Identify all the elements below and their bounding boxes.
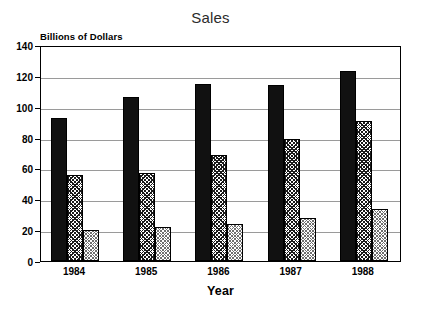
bar-1987-series-2-cross-hatch bbox=[284, 139, 300, 261]
y-tick-mark bbox=[35, 108, 40, 109]
bar-1987-series-3-light-stipple bbox=[300, 218, 316, 261]
bar-group bbox=[185, 47, 257, 261]
x-axis-label: Year bbox=[40, 284, 401, 298]
y-tick-label: 140 bbox=[16, 41, 33, 52]
sales-bar-chart: Sales Billions of Dollars 02040608010012… bbox=[0, 0, 421, 313]
y-tick-mark bbox=[35, 169, 40, 170]
y-tick-label: 0 bbox=[27, 257, 33, 268]
bar-group bbox=[258, 47, 330, 261]
bar-1984-series-1-solid-black bbox=[51, 118, 67, 261]
y-tick-label: 40 bbox=[22, 195, 33, 206]
bar-group bbox=[330, 47, 402, 261]
bar-1988-series-3-light-stipple bbox=[372, 209, 388, 261]
y-tick-label: 100 bbox=[16, 102, 33, 113]
y-tick-label: 60 bbox=[22, 164, 33, 175]
bar-1988-series-1-solid-black bbox=[340, 71, 356, 261]
y-tick-label: 20 bbox=[22, 226, 33, 237]
y-tick-mark bbox=[35, 77, 40, 78]
bar-1988-series-2-cross-hatch bbox=[356, 121, 372, 261]
y-tick-mark bbox=[35, 200, 40, 201]
chart-title: Sales bbox=[0, 9, 421, 26]
y-tick-label: 120 bbox=[16, 71, 33, 82]
y-tick-mark bbox=[35, 231, 40, 232]
bar-1984-series-2-cross-hatch bbox=[67, 175, 83, 261]
plot-area bbox=[40, 46, 401, 262]
bar-1985-series-2-cross-hatch bbox=[139, 173, 155, 261]
bar-group bbox=[113, 47, 185, 261]
x-tick-label: 1987 bbox=[279, 266, 301, 277]
bar-1985-series-3-light-stipple bbox=[155, 227, 171, 261]
x-tick-label: 1984 bbox=[63, 266, 85, 277]
y-tick-mark bbox=[35, 139, 40, 140]
y-tick-label: 80 bbox=[22, 133, 33, 144]
y-tick-mark bbox=[35, 262, 40, 263]
bar-1986-series-2-cross-hatch bbox=[211, 155, 227, 261]
x-tick-label: 1986 bbox=[207, 266, 229, 277]
plot-inner bbox=[41, 47, 400, 261]
bar-group bbox=[41, 47, 113, 261]
bar-1986-series-3-light-stipple bbox=[227, 224, 243, 261]
bar-1986-series-1-solid-black bbox=[195, 84, 211, 261]
bar-1985-series-1-solid-black bbox=[123, 97, 139, 261]
bar-1984-series-3-light-stipple bbox=[83, 230, 99, 261]
y-tick-mark bbox=[35, 46, 40, 47]
x-tick-label: 1988 bbox=[352, 266, 374, 277]
y-axis-label: Billions of Dollars bbox=[40, 31, 123, 42]
x-tick-label: 1985 bbox=[135, 266, 157, 277]
bar-1987-series-1-solid-black bbox=[268, 85, 284, 261]
